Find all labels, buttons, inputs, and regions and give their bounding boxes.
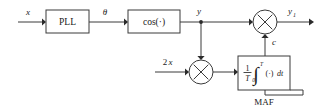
arrowhead-into-cos [124,18,128,25]
arrowhead-into-top-multiplier [249,18,253,25]
block-cos-label: cos(·) [143,17,165,28]
label-y: y [196,6,201,16]
arrowhead-into-maf [234,68,238,75]
label-2x-variable: x [168,57,173,67]
arrowhead-output-y1 [309,18,314,25]
label-theta: θ [103,7,108,17]
arrowhead-into-top-multiplier-bottom [261,34,268,38]
junction-dot-y [199,20,203,24]
maf-fraction-denominator: T [245,74,250,83]
block-diagram: PLL cos(·) 1 T ∫ T 0 (·) dt MAF x θ y [0,0,323,111]
maf-differential: dt [277,69,284,78]
diagram-canvas: PLL cos(·) 1 T ∫ T 0 (·) dt MAF x θ y [0,0,323,111]
arrowhead-into-bottom-multiplier-left [185,68,189,75]
arrowhead-into-bottom-multiplier-top [197,56,204,60]
maf-fraction-numerator: 1 [246,64,250,73]
label-output-y1-subscript: 1 [293,12,296,18]
block-pll-label: PLL [59,17,76,27]
label-c: c [272,37,276,47]
maf-integral-lower-limit: 0 [252,77,255,83]
label-input-x: x [25,7,30,17]
label-2x-coefficient: 2 [163,57,168,67]
label-output-y1-base: y [287,6,292,16]
arrowhead-into-pll [42,18,46,25]
maf-integrand: (·) [266,69,274,78]
block-maf-caption: MAF [254,97,274,107]
